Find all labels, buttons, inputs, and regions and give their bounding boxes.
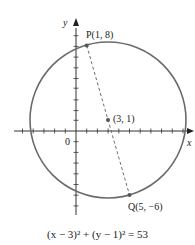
point-p-label: P(1, 8) xyxy=(86,29,113,41)
x-axis-label: x xyxy=(186,137,192,148)
coordinate-plane: y x 0 P(1, 8) (3, 1) Q(5, −6) xyxy=(0,0,195,245)
x-axis xyxy=(14,128,194,134)
y-axis-label: y xyxy=(62,17,68,28)
center-label: (3, 1) xyxy=(113,113,135,125)
point-q xyxy=(128,193,132,197)
point-center xyxy=(106,118,110,122)
point-q-label: Q(5, −6) xyxy=(128,201,163,213)
circle-equation: (x − 3)² + (y − 1)² = 53 xyxy=(0,228,195,240)
origin-label: 0 xyxy=(65,136,70,147)
point-p xyxy=(85,44,89,48)
